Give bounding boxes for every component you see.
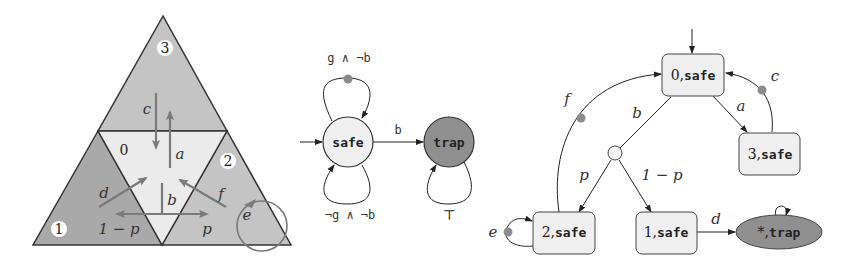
region-3-label: 3: [161, 40, 170, 56]
edge-b: [620, 97, 671, 148]
edge-label-f: f: [563, 90, 572, 108]
product-mdp: a c b p 1 − p f e d 0,saf: [489, 29, 822, 254]
region-0-label: 0: [120, 142, 129, 158]
arena-label-d: d: [99, 184, 109, 202]
edge-label-d: d: [711, 210, 721, 228]
arena-label-c: c: [143, 100, 152, 118]
arena-label-a: a: [176, 145, 185, 163]
edge-label-p: p: [579, 166, 589, 184]
svg-text:*,trap: *,trap: [758, 224, 801, 240]
state-trap-mon: trap: [769, 225, 800, 240]
edge-e-dot: [504, 228, 513, 237]
svg-text:3,safe: 3,safe: [748, 146, 793, 162]
state-2-num: 2,: [542, 224, 555, 240]
region-3: [98, 16, 227, 131]
edge-label-1-minus-p: 1 − p: [641, 166, 683, 184]
region-2-label: 2: [224, 153, 233, 169]
safe-bottom-loop: [324, 165, 370, 204]
arena-label-b: b: [167, 191, 177, 209]
edge-label-b: b: [632, 104, 642, 122]
state-0-num: 0,: [671, 67, 684, 83]
safe-top-loop: [323, 78, 370, 121]
edge-f-dot: [577, 114, 586, 123]
product-state-1-safe: 1,safe: [636, 212, 697, 254]
safe-top-loop-label: g ∧ ¬b: [327, 51, 370, 65]
product-state-3-safe: 3,safe: [739, 133, 800, 175]
state-3-num: 3,: [748, 146, 761, 162]
edge-f: [557, 74, 661, 212]
edge-c-dot: [758, 86, 767, 95]
state-trap-num: *,: [758, 224, 769, 240]
edge-label-c: c: [771, 67, 780, 85]
safe-top-loop-dot: [344, 75, 353, 84]
trap-loop: [427, 162, 471, 204]
state-0-mon: safe: [684, 68, 715, 83]
region-1-label: 1: [55, 221, 64, 237]
product-state-trap: *,trap: [736, 215, 822, 249]
safe-to-trap-label: b: [394, 123, 401, 137]
edge-c: [726, 73, 772, 132]
edge-label-a: a: [737, 97, 746, 115]
edge-label-e: e: [489, 223, 498, 241]
product-state-2-safe: 2,safe: [533, 212, 595, 254]
svg-text:2,safe: 2,safe: [542, 224, 587, 240]
safe-bottom-loop-label: ¬g ∧ ¬b: [325, 208, 376, 222]
arena-label-e: e: [243, 206, 252, 224]
monitor-automaton: g ∧ ¬b ¬g ∧ ¬b safe b trap ⊤: [300, 51, 474, 223]
state-2-mon: safe: [555, 225, 586, 240]
state-1-num: 1,: [644, 224, 657, 240]
trap-loop-label: ⊤: [442, 207, 455, 223]
monitor-state-trap-label: trap: [433, 135, 464, 150]
state-1-mon: safe: [657, 225, 688, 240]
svg-text:0,safe: 0,safe: [671, 67, 716, 83]
probabilistic-node: [608, 146, 622, 160]
product-state-0-safe: 0,safe: [662, 54, 724, 96]
arena-label-p: p: [202, 220, 212, 238]
arena-diagram: 3 0 1 2 c a d b f e 1 − p p: [33, 16, 291, 251]
monitor-state-safe-label: safe: [332, 135, 363, 150]
state-3-mon: safe: [761, 147, 792, 162]
arena-label-1-minus-p: 1 − p: [98, 220, 140, 238]
svg-text:1,safe: 1,safe: [644, 224, 689, 240]
